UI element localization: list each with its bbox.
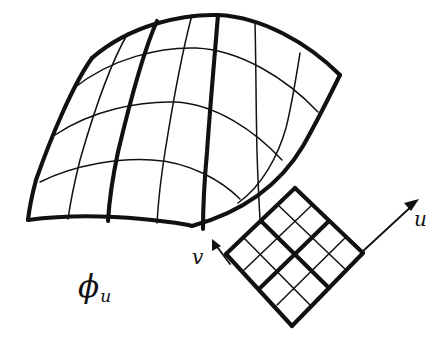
v-axis-label: v bbox=[192, 247, 203, 267]
u-axis-shaft bbox=[362, 204, 414, 252]
surface-curve-u3 bbox=[157, 15, 192, 223]
surface-curve-v1 bbox=[74, 48, 318, 112]
surface-boundary-right bbox=[192, 75, 340, 226]
surface-curve-u5 bbox=[255, 23, 260, 219]
u-axis-arrow bbox=[362, 199, 419, 252]
u-axis-label: u bbox=[414, 209, 427, 229]
surface-curve-u1 bbox=[68, 33, 128, 219]
surface-curve-u4 bbox=[203, 15, 218, 229]
parameter-square-grid bbox=[226, 188, 363, 326]
map-label-phi: ϕu bbox=[78, 271, 111, 305]
surface-curve-u2 bbox=[108, 21, 157, 221]
phi-glyph: ϕ bbox=[78, 268, 99, 304]
diagram-figure: ϕu u v bbox=[0, 0, 445, 345]
surface-curve-v3 bbox=[40, 160, 240, 199]
curved-surface-patch bbox=[28, 15, 340, 229]
phi-subscript: u bbox=[100, 286, 111, 306]
surface-curve-u6 bbox=[238, 53, 300, 203]
diagram-canvas bbox=[0, 0, 445, 345]
